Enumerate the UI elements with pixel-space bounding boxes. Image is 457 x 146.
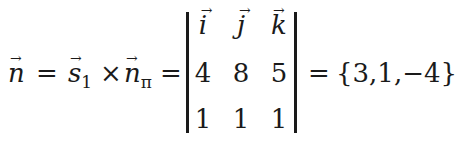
matrix-cell: 1	[226, 106, 256, 132]
vector-arrow-icon: →	[273, 3, 285, 17]
vector-n-pi: →nπ	[124, 60, 152, 89]
matrix-cell: 8	[226, 60, 256, 86]
matrix-cell: 4	[188, 60, 218, 86]
vector-s1: →s1	[68, 60, 92, 89]
result-vector: {3,1,−4}	[336, 60, 457, 86]
matrix-cell: 5	[264, 60, 294, 86]
unit-vector-i: →i	[188, 12, 218, 38]
vector-n: →n	[8, 60, 25, 86]
matrix-cell: 1	[264, 106, 294, 132]
equals-sign: =	[160, 60, 182, 86]
matrix-cell: 1	[188, 106, 218, 132]
determinant-right-bar	[294, 12, 297, 133]
unit-vector-j: →j	[226, 12, 256, 38]
vector-arrow-icon: →	[70, 51, 82, 65]
vector-arrow-icon: →	[126, 51, 138, 65]
cross-sign: ×	[100, 60, 122, 86]
vector-arrow-icon: →	[10, 51, 22, 65]
equals-sign: =	[308, 60, 330, 86]
unit-vector-k: →k	[264, 12, 294, 38]
vector-arrow-icon: →	[201, 3, 213, 17]
equals-sign: =	[36, 60, 58, 86]
vector-arrow-icon: →	[239, 3, 251, 17]
